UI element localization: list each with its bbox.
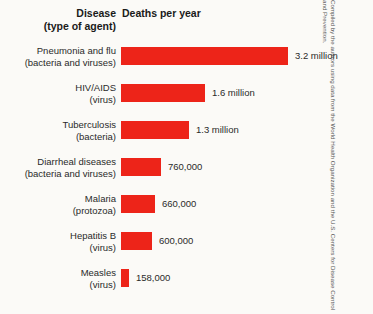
- disease-name: Tuberculosis: [62, 119, 116, 130]
- bar-container: 1.3 million: [121, 120, 239, 139]
- bar: [121, 158, 161, 176]
- bar-container: 760,000: [121, 157, 202, 176]
- bar: [121, 47, 288, 65]
- disease-name: Hepatitis B: [70, 230, 116, 241]
- disease-name: Diarrheal diseases: [37, 156, 116, 167]
- bar: [121, 232, 152, 250]
- disease-name: HIV/AIDS: [75, 82, 116, 93]
- disease-name: Measles: [81, 267, 116, 278]
- bar-container: 600,000: [121, 231, 193, 250]
- bar: [121, 84, 205, 102]
- deaths-per-year-bar-chart: Disease (type of agent) Deaths per year …: [0, 0, 373, 314]
- bar-value-label: 660,000: [162, 198, 196, 209]
- column-header-deaths: Deaths per year: [122, 7, 282, 20]
- disease-agent: (bacteria and viruses): [4, 168, 116, 180]
- row-label: Hepatitis B(virus): [4, 230, 116, 253]
- bar: [121, 195, 155, 213]
- row-label: Diarrheal diseases(bacteria and viruses): [4, 156, 116, 179]
- disease-agent: (virus): [4, 94, 116, 106]
- column-header-disease-line2: (type of agent): [8, 20, 116, 33]
- bar: [121, 121, 189, 139]
- disease-name: Pneumonia and flu: [37, 45, 116, 56]
- bar-value-label: 600,000: [159, 235, 193, 246]
- source-credit: Compiled by the authors using data from …: [308, 0, 338, 314]
- row-label: Malaria(protozoa): [4, 193, 116, 216]
- bar-value-label: 760,000: [168, 161, 202, 172]
- disease-agent: (protozoa): [4, 205, 116, 217]
- row-label: Pneumonia and flu(bacteria and viruses): [4, 45, 116, 68]
- row-label: Tuberculosis(bacteria): [4, 119, 116, 142]
- bar-container: 1.6 million: [121, 83, 255, 102]
- bar: [121, 269, 129, 287]
- row-label: HIV/AIDS(virus): [4, 82, 116, 105]
- bar-container: 158,000: [121, 268, 170, 287]
- bar-container: 3.2 million: [121, 46, 338, 65]
- disease-name: Malaria: [85, 193, 116, 204]
- column-header-disease-line1: Disease: [76, 7, 116, 19]
- bar-container: 660,000: [121, 194, 196, 213]
- row-label: Measles(virus): [4, 267, 116, 290]
- bar-value-label: 158,000: [136, 272, 170, 283]
- disease-agent: (bacteria): [4, 131, 116, 143]
- bar-value-label: 1.3 million: [196, 124, 239, 135]
- disease-agent: (virus): [4, 279, 116, 291]
- disease-agent: (bacteria and viruses): [4, 57, 116, 69]
- disease-agent: (virus): [4, 242, 116, 254]
- column-header-disease: Disease (type of agent): [8, 7, 116, 33]
- bar-value-label: 1.6 million: [212, 87, 255, 98]
